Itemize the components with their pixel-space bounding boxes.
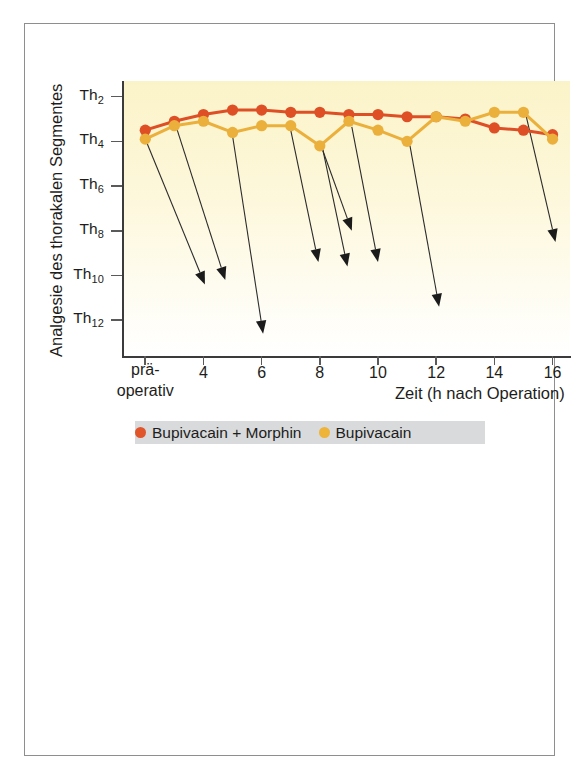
chart-analgesia: Th2Th4Th6Th8Th10Th12prä-operativ46810121… (25, 24, 580, 414)
annotation-arrow (256, 320, 266, 334)
data-point-marker (256, 120, 267, 131)
annotation-arrow (195, 270, 205, 284)
data-point-marker (314, 107, 325, 118)
legend-marker-icon (135, 427, 146, 438)
chart-legend: Bupivacain + Morphin Bupivacain (135, 421, 485, 444)
data-point-marker (372, 125, 383, 136)
data-point-marker (285, 120, 296, 131)
legend-marker-icon (319, 427, 330, 438)
data-point-marker (285, 107, 296, 118)
data-point-marker (431, 111, 442, 122)
annotation-arrow (370, 248, 380, 262)
data-point-marker (518, 125, 529, 136)
legend-item-bupivacain-morphin: Bupivacain + Morphin (135, 424, 302, 442)
data-point-marker (401, 136, 412, 147)
figure-frame: Th2Th4Th6Th8Th10Th12prä-operativ46810121… (24, 23, 555, 756)
data-point-marker (460, 116, 471, 127)
data-point-marker (401, 111, 412, 122)
data-point-marker (547, 134, 558, 145)
data-point-marker (140, 134, 151, 145)
data-point-marker (256, 104, 267, 115)
legend-label: Bupivacain + Morphin (152, 424, 302, 442)
annotation-arrow (343, 217, 353, 231)
data-point-marker (198, 116, 209, 127)
annotation-arrow (311, 248, 321, 262)
annotation-arrow (547, 228, 557, 242)
data-point-marker (518, 107, 529, 118)
annotation-arrow (432, 293, 442, 307)
data-point-marker (489, 107, 500, 118)
data-point-marker (227, 104, 238, 115)
data-point-marker (343, 116, 354, 127)
data-point-marker (489, 122, 500, 133)
data-point-marker (169, 120, 180, 131)
annotation-arrow (340, 253, 350, 267)
data-point-marker (314, 140, 325, 151)
annotation-arrow (216, 266, 226, 280)
legend-label: Bupivacain (336, 424, 412, 442)
data-point-marker (227, 127, 238, 138)
series-overlay-pain-score (25, 456, 580, 776)
chart-pain-score: 01234prä-operativ46810121416Zeit (h nach… (25, 456, 580, 776)
data-point-marker (372, 109, 383, 120)
legend-item-bupivacain: Bupivacain (319, 424, 412, 442)
